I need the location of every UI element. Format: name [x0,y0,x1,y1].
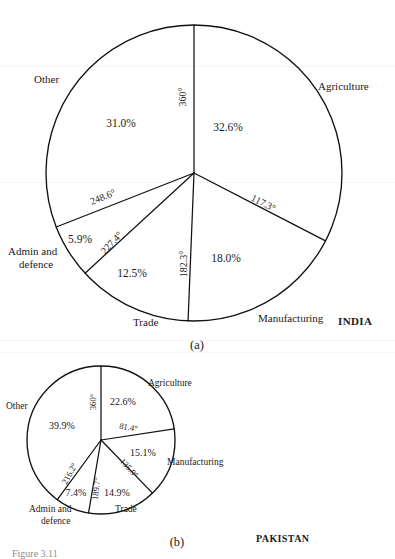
pie-slice-divider [56,173,194,227]
pakistan-pie-chart: AgricultureManufacturingTradeAdmin andde… [6,366,310,544]
pie-category-label: Manufacturing [167,457,224,467]
pie-category-label: Agriculture [148,378,192,388]
pie-angle-label: 117.3° [249,192,277,214]
pie-angle-label: 360° [177,88,188,107]
pie-percentage-label: 15.1% [130,447,156,458]
pie-angle-label: 227.4° [98,229,124,256]
pie-slice-divider [188,173,194,321]
pie-angle-label: 248.6° [88,187,117,207]
pie-percentage-label: 18.0% [211,252,241,264]
pie-category-label: Agriculture [318,80,369,92]
pie-category-label: defence [41,516,71,526]
pie-category-label: Manufacturing [258,312,324,324]
pie-percentage-label: 39.9% [49,420,75,431]
pie-angle-label: 135.9° [118,456,141,480]
pie-angle-label: 189.7° [90,476,102,500]
pakistan-country-title: PAKISTAN [256,533,310,544]
pie-category-label: Other [34,73,59,85]
india-pie-chart: AgricultureManufacturingTradeAdmin andde… [8,25,372,328]
pie-slice-divider [101,429,174,440]
pie-percentage-label: 32.6% [213,121,243,133]
pie-category-label: Trade [133,316,158,328]
pie-category-label: Admin and [8,245,58,257]
pie-category-label: Admin and [29,504,72,514]
pie-percentage-label: 22.6% [110,396,136,407]
pie-angle-label: 81.4° [119,421,139,434]
pie-angle-label: 182.3° [178,251,189,278]
pie-percentage-label: 31.0% [106,117,136,129]
india-pie-spokes [56,25,325,321]
panel-b-caption: (b) [170,535,185,549]
pie-percentage-label: 14.9% [104,487,130,498]
pie-slice-divider [89,440,101,513]
pie-percentage-label: 12.5% [117,267,147,279]
panel-a-caption: (a) [190,338,204,352]
pie-category-label: Other [6,401,28,411]
india-category-labels: AgricultureManufacturingTradeAdmin andde… [8,73,369,328]
pie-angle-label: 360° [88,393,98,410]
pie-percentage-label: 5.9% [68,233,92,245]
pie-category-label: defence [19,258,53,270]
figure-number-caption: Figure 3.11 [12,548,58,559]
pie-category-label: Trade [115,504,137,514]
india-country-title: INDIA [338,315,372,327]
pie-percentage-label: 7.4% [66,487,87,498]
